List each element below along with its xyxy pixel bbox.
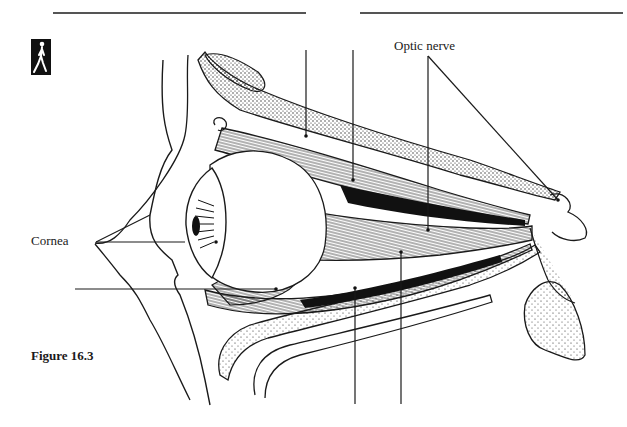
eye-anatomy-illustration <box>0 0 627 427</box>
optic-canal <box>550 194 586 240</box>
cheek-line <box>95 244 190 400</box>
figure-caption: Figure 16.3 <box>31 348 94 364</box>
skin-line-outer <box>95 55 188 243</box>
label-cornea: Cornea <box>31 233 69 249</box>
cornea <box>186 168 226 278</box>
pupil <box>192 216 200 236</box>
leader-cornea-1b <box>96 215 150 242</box>
sphenoid-bone <box>524 282 585 360</box>
trochlea <box>214 118 227 131</box>
label-optic-nerve: Optic nerve <box>394 38 455 54</box>
